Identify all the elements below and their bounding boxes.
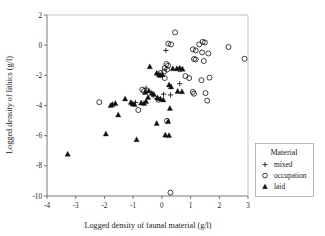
legend-label-laid: laid	[274, 182, 285, 191]
point-laid	[65, 151, 70, 156]
y-tick-label: -6	[36, 132, 42, 140]
point-occupation	[207, 75, 212, 80]
point-occupation	[136, 108, 141, 113]
point-laid	[167, 105, 172, 110]
point-laid	[166, 133, 171, 138]
x-tick-label: 3	[246, 202, 250, 210]
y-axis-title: Logged density of lithics (g/l)	[5, 56, 14, 154]
x-tick-label: -3	[73, 202, 79, 210]
scatter-plot-figure: -4-3-2-10123 20-2-4-6-8-10 Logged densit…	[0, 0, 325, 236]
point-laid	[103, 131, 108, 136]
point-laid	[170, 66, 175, 71]
x-axis-title: Logged density of faunal material (g/l)	[84, 221, 211, 230]
point-occupation	[200, 50, 205, 55]
legend: Material mixedoccupationlaid	[256, 144, 314, 197]
point-occupation	[201, 59, 206, 64]
point-occupation	[173, 30, 178, 35]
point-occupation	[190, 47, 195, 52]
data-points	[65, 30, 247, 195]
point-mixed	[177, 81, 182, 86]
point-mixed	[161, 92, 166, 97]
legend-title: Material	[270, 148, 298, 157]
series-occupation	[97, 30, 247, 195]
x-tick-label: -4	[44, 202, 50, 210]
x-tick-label: -1	[130, 202, 136, 210]
point-laid	[179, 89, 184, 94]
legend-label-occupation: occupation	[274, 171, 307, 180]
y-tick-label: -10	[32, 193, 42, 201]
point-laid	[166, 119, 171, 124]
plot-frame	[47, 15, 248, 196]
point-laid	[154, 120, 159, 125]
point-occupation	[206, 51, 211, 56]
y-tick-label: -8	[36, 162, 42, 170]
x-axis-ticks: -4-3-2-10123	[44, 196, 250, 210]
point-occupation	[199, 78, 204, 83]
x-tick-label: 0	[160, 202, 164, 210]
chart-canvas: -4-3-2-10123 20-2-4-6-8-10 Logged densit…	[0, 0, 325, 236]
y-tick-label: 0	[38, 42, 42, 50]
y-axis-ticks: 20-2-4-6-8-10	[32, 12, 47, 201]
point-occupation	[169, 42, 174, 47]
y-tick-label: -4	[36, 102, 42, 110]
point-occupation	[193, 48, 198, 53]
legend-label-mixed: mixed	[274, 160, 293, 169]
point-occupation	[205, 98, 210, 103]
point-occupation	[97, 100, 102, 105]
x-tick-label: 2	[217, 202, 221, 210]
y-tick-label: 2	[38, 12, 42, 20]
y-tick-label: -2	[36, 72, 42, 80]
point-laid	[134, 137, 139, 142]
point-mixed	[163, 48, 168, 53]
point-laid	[122, 96, 127, 101]
point-mixed	[168, 92, 173, 97]
point-occupation	[168, 190, 173, 195]
point-occupation	[197, 42, 202, 47]
point-occupation	[242, 56, 247, 61]
x-tick-label: -2	[101, 202, 107, 210]
point-laid	[116, 112, 121, 117]
point-occupation	[226, 44, 231, 49]
point-occupation	[203, 91, 208, 96]
point-laid	[147, 64, 152, 69]
x-tick-label: 1	[189, 202, 193, 210]
point-laid	[175, 88, 180, 93]
